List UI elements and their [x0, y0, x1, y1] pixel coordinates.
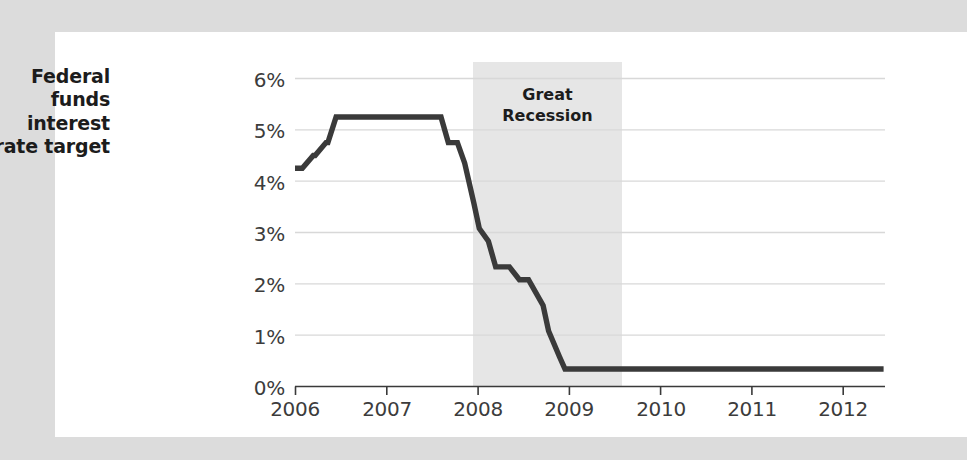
- x-tick-label-2009: 2009: [524, 397, 614, 421]
- y-tick-label-1: 1%: [233, 325, 285, 349]
- plot-area: Federal funds interest rate target 6% 5%…: [55, 32, 967, 437]
- y-axis-title-line-4: rate target: [0, 135, 110, 158]
- x-tick-label-2008: 2008: [433, 397, 523, 421]
- chart-panel: Federal funds interest rate target 6% 5%…: [55, 32, 967, 437]
- recession-annotation-line-1: Great: [473, 85, 622, 106]
- x-tick-label-2006: 2006: [250, 397, 340, 421]
- recession-annotation-line-2: Recession: [473, 106, 622, 127]
- y-tick-label-6: 6%: [233, 68, 285, 92]
- x-axis-ticks: [296, 387, 844, 396]
- y-axis-title-line-2: funds: [0, 88, 110, 111]
- y-axis-title: Federal funds interest rate target: [0, 65, 110, 158]
- x-tick-label-2010: 2010: [616, 397, 706, 421]
- y-axis-title-line-1: Federal: [0, 65, 110, 88]
- recession-annotation-label: Great Recession: [473, 85, 622, 127]
- y-axis-title-line-3: interest: [0, 112, 110, 135]
- y-tick-label-4: 4%: [233, 171, 285, 195]
- x-tick-label-2012: 2012: [798, 397, 888, 421]
- y-tick-label-2: 2%: [233, 273, 285, 297]
- chart-figure: Federal funds interest rate target 6% 5%…: [0, 0, 967, 460]
- x-tick-label-2007: 2007: [342, 397, 432, 421]
- y-tick-label-5: 5%: [233, 119, 285, 143]
- x-tick-label-2011: 2011: [707, 397, 797, 421]
- y-tick-label-3: 3%: [233, 222, 285, 246]
